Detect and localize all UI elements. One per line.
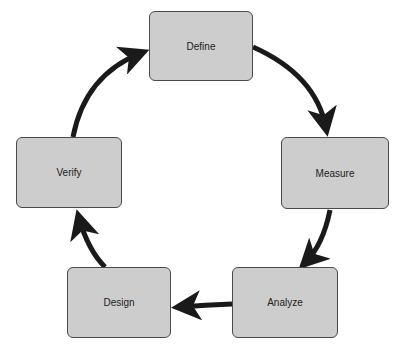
arrow-design-to-verify [79, 218, 105, 267]
node-label: Verify [56, 167, 81, 178]
node-define: Define [149, 11, 253, 81]
arrow-define-to-measure [253, 47, 326, 128]
node-design: Design [67, 267, 171, 338]
node-label: Measure [316, 168, 355, 179]
arrow-measure-to-analyze [305, 210, 330, 263]
node-label: Analyze [267, 297, 303, 308]
node-verify: Verify [16, 137, 122, 208]
node-analyze: Analyze [232, 267, 338, 338]
node-measure: Measure [281, 137, 389, 209]
node-label: Design [103, 297, 134, 308]
node-label: Define [187, 41, 216, 52]
arrow-analyze-to-design [180, 304, 232, 307]
arrow-verify-to-define [73, 53, 141, 137]
cycle-diagram: Define Measure Analyze Design Verify [0, 0, 401, 349]
